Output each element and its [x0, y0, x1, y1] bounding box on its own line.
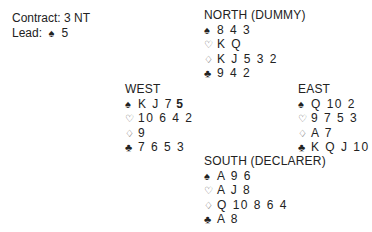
heart-icon: ♡ — [298, 112, 311, 127]
contract-label: Contract: 3 NT — [12, 11, 90, 26]
suit-row-diamonds: ♢K J 5 3 2 — [204, 52, 306, 67]
led-card: 5 — [176, 97, 184, 111]
suit-row-clubs: ♣A 8 — [204, 212, 326, 227]
suit-row-clubs: ♣K Q J 10 — [298, 140, 370, 155]
spade-icon: ♠ — [48, 26, 61, 41]
hand-title: NORTH (DUMMY) — [204, 8, 306, 23]
cards: 8 4 3 — [217, 23, 251, 37]
spade-icon: ♠ — [204, 23, 217, 38]
suit-row-diamonds: ♢9 — [125, 126, 193, 141]
cards: A J 8 — [217, 183, 251, 197]
club-icon: ♣ — [204, 212, 217, 227]
cards: 9 7 5 3 — [311, 111, 358, 125]
spade-icon: ♠ — [125, 97, 138, 112]
contract-info: Contract: 3 NT Lead: ♠5 — [12, 11, 90, 40]
cards: 9 — [138, 126, 146, 140]
club-icon: ♣ — [298, 140, 311, 155]
hand-title: SOUTH (DECLARER) — [204, 154, 326, 169]
suit-row-hearts: ♡K Q — [204, 37, 306, 52]
hand-title: WEST — [125, 82, 193, 97]
suit-row-clubs: ♣9 4 2 — [204, 66, 306, 81]
suit-row-spades: ♠A 9 6 — [204, 169, 326, 184]
heart-icon: ♡ — [204, 184, 217, 199]
hand-east: EAST ♠Q 10 2 ♡9 7 5 3 ♢A 7 ♣K Q J 10 — [298, 82, 370, 155]
hand-title: EAST — [298, 82, 370, 97]
cards: Q 10 8 6 4 — [217, 198, 288, 212]
suit-row-hearts: ♡A J 8 — [204, 183, 326, 198]
lead-line: Lead: ♠5 — [12, 26, 90, 41]
diamond-icon: ♢ — [298, 127, 311, 142]
suit-row-diamonds: ♢A 7 — [298, 126, 370, 141]
cards: Q 10 2 — [311, 97, 356, 111]
suit-row-spades: ♠Q 10 2 — [298, 97, 370, 112]
hand-south: SOUTH (DECLARER) ♠A 9 6 ♡A J 8 ♢Q 10 8 6… — [204, 154, 326, 227]
cards: K Q J 10 — [311, 140, 370, 154]
cards: 9 4 2 — [217, 66, 251, 80]
cards: A 8 — [217, 212, 239, 226]
suit-row-hearts: ♡10 6 4 2 — [125, 111, 193, 126]
diamond-icon: ♢ — [204, 199, 217, 214]
cards: 7 6 5 3 — [138, 140, 185, 154]
suit-row-clubs: ♣7 6 5 3 — [125, 140, 193, 155]
club-icon: ♣ — [204, 66, 217, 81]
diamond-icon: ♢ — [125, 127, 138, 142]
cards: K J 7 — [138, 97, 173, 111]
suit-row-hearts: ♡9 7 5 3 — [298, 111, 370, 126]
cards: K J 5 3 2 — [217, 52, 278, 66]
diamond-icon: ♢ — [204, 53, 217, 68]
cards: A 7 — [311, 126, 333, 140]
club-icon: ♣ — [125, 140, 138, 155]
heart-icon: ♡ — [125, 112, 138, 127]
suit-row-diamonds: ♢Q 10 8 6 4 — [204, 198, 326, 213]
heart-icon: ♡ — [204, 38, 217, 53]
cards: K Q — [217, 37, 242, 51]
suit-row-spades: ♠8 4 3 — [204, 23, 306, 38]
lead-card: 5 — [61, 26, 68, 40]
suit-row-spades: ♠K J 7 5 — [125, 97, 193, 112]
hand-north: NORTH (DUMMY) ♠8 4 3 ♡K Q ♢K J 5 3 2 ♣9 … — [204, 8, 306, 81]
hand-west: WEST ♠K J 7 5 ♡10 6 4 2 ♢9 ♣7 6 5 3 — [125, 82, 193, 155]
spade-icon: ♠ — [204, 169, 217, 184]
spade-icon: ♠ — [298, 97, 311, 112]
lead-label: Lead: — [12, 26, 42, 40]
cards: 10 6 4 2 — [138, 111, 193, 125]
cards: A 9 6 — [217, 169, 252, 183]
